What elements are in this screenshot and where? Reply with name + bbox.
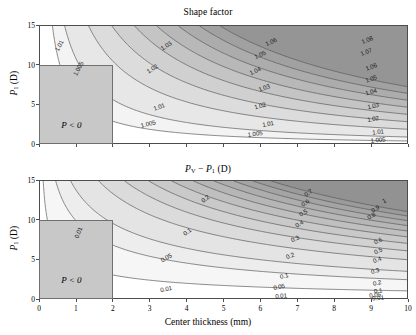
x-tick: [408, 299, 409, 302]
y-tick-label: 0: [15, 140, 35, 149]
panel-shape-factor: Shape factor 051015 P1 (D) P < 0 1.011.0…: [0, 0, 416, 160]
x-tick: [260, 299, 261, 302]
x-tick: [76, 299, 77, 302]
x-tick: [39, 144, 40, 147]
y-tick-label: 15: [15, 21, 35, 30]
x-tick: [223, 144, 224, 147]
top-plot-title: Shape factor: [0, 6, 416, 18]
x-tick: [371, 144, 372, 147]
y-tick: [36, 25, 39, 26]
bottom-y-axis-title: P1 (D): [9, 208, 19, 268]
x-tick-label: 5: [222, 304, 226, 313]
x-tick: [39, 299, 40, 302]
bottom-negative-power-label: P < 0: [61, 275, 81, 285]
x-tick: [260, 144, 261, 147]
panel-vertex-power-difference: PV − P1 (D) 051015 012345678910 P1 (D) C…: [0, 160, 416, 335]
y-tick-label: 15: [15, 176, 35, 185]
bottom-plot-title: PV − P1 (D): [0, 163, 416, 177]
x-tick-label: 8: [332, 304, 336, 313]
x-tick: [112, 144, 113, 147]
x-tick-label: 1: [74, 304, 78, 313]
x-tick: [112, 299, 113, 302]
x-tick-label: 10: [404, 304, 412, 313]
x-tick: [186, 144, 187, 147]
x-tick: [149, 299, 150, 302]
top-negative-power-label: P < 0: [61, 120, 81, 130]
figure-contour-plots: Shape factor 051015 P1 (D) P < 0 1.011.0…: [0, 0, 416, 335]
x-tick: [334, 299, 335, 302]
y-tick-label: 0: [15, 295, 35, 304]
x-tick-label: 3: [148, 304, 152, 313]
contour-label: 0.01: [372, 294, 384, 302]
x-tick: [334, 144, 335, 147]
x-tick: [186, 299, 187, 302]
x-tick: [408, 144, 409, 147]
x-tick: [76, 144, 77, 147]
x-tick: [297, 299, 298, 302]
x-tick-label: 6: [259, 304, 263, 313]
x-tick: [223, 299, 224, 302]
x-tick-label: 4: [185, 304, 189, 313]
x-tick-label: 0: [37, 304, 41, 313]
contour-label: 1.005: [371, 135, 387, 143]
x-tick-label: 7: [295, 304, 299, 313]
contour-label: 0.01: [275, 292, 287, 300]
top-y-axis-title: P1 (D): [9, 53, 19, 113]
y-tick: [36, 180, 39, 181]
top-negative-power-region: [39, 65, 113, 144]
x-tick-label: 2: [111, 304, 115, 313]
x-tick-label: 9: [369, 304, 373, 313]
x-tick: [297, 144, 298, 147]
bottom-x-axis-title: Center thickness (mm): [0, 317, 416, 327]
x-tick: [149, 144, 150, 147]
contour-label: 1.02: [367, 114, 380, 123]
